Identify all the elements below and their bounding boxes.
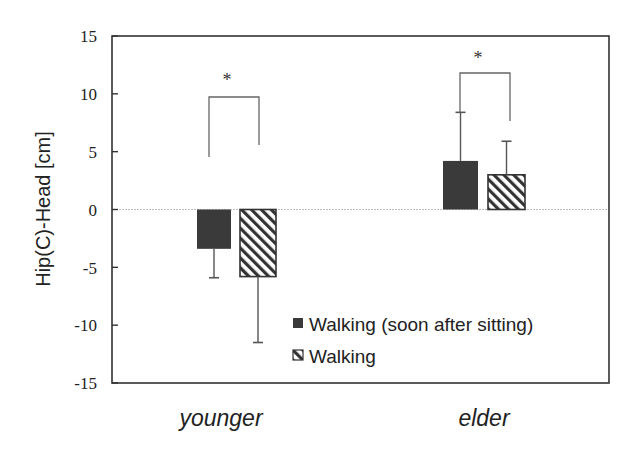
x-category-label-younger: younger [177, 405, 263, 431]
y-tick-label: -10 [74, 316, 97, 335]
significance-marker-younger: * [223, 70, 232, 90]
y-tick-label: 15 [80, 27, 97, 46]
bars [197, 112, 525, 342]
significance-bracket-younger [209, 97, 259, 157]
y-tick-label: 5 [89, 143, 98, 162]
bar-elder-hatched [488, 175, 525, 210]
significance-bracket-elder [460, 73, 510, 121]
x-category-label-elder: elder [458, 405, 510, 431]
bar-younger-solid [197, 210, 231, 249]
y-tick-label: -5 [83, 259, 97, 278]
y-axis-tick-labels: 15 10 5 0 -5 -10 -15 [74, 27, 97, 393]
legend-swatch-hatched [293, 350, 303, 360]
y-axis-label: Hip(C)-Head [cm] [32, 131, 54, 287]
significance-marker-elder: * [474, 48, 483, 68]
bar-elder-solid [443, 161, 478, 210]
legend-label: Walking (soon after sitting) [309, 314, 533, 335]
legend-swatch-solid [293, 318, 303, 328]
bar-younger-hatched [240, 210, 276, 277]
y-axis-ticks [112, 36, 118, 383]
legend: Walking (soon after sitting) Walking [293, 314, 533, 367]
y-tick-label: 0 [89, 201, 98, 220]
y-tick-label: -15 [74, 374, 97, 393]
legend-label: Walking [309, 346, 376, 367]
y-tick-label: 10 [80, 85, 97, 104]
bar-chart: 15 10 5 0 -5 -10 -15 Hip(C)-Head [cm] * … [0, 0, 641, 451]
